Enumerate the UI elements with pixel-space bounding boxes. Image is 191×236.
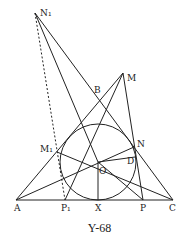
label-m: M bbox=[127, 74, 136, 83]
geometry-figure: N₁ M B M₁ N D O A P₁ X P C Y-68 bbox=[0, 0, 191, 236]
label-n1: N₁ bbox=[40, 9, 51, 18]
label-n: N bbox=[137, 140, 145, 149]
label-o: O bbox=[99, 167, 106, 176]
label-m1: M₁ bbox=[40, 145, 53, 154]
diagram-canvas bbox=[0, 0, 191, 236]
label-p: P bbox=[140, 204, 146, 213]
figure-caption: Y-68 bbox=[0, 221, 191, 236]
label-x: X bbox=[95, 204, 101, 213]
label-b: B bbox=[94, 86, 101, 95]
label-p1: P₁ bbox=[61, 204, 71, 213]
label-c: C bbox=[169, 204, 176, 213]
line-a-m bbox=[16, 73, 123, 200]
label-d: D bbox=[127, 157, 134, 166]
label-a: A bbox=[14, 204, 21, 213]
